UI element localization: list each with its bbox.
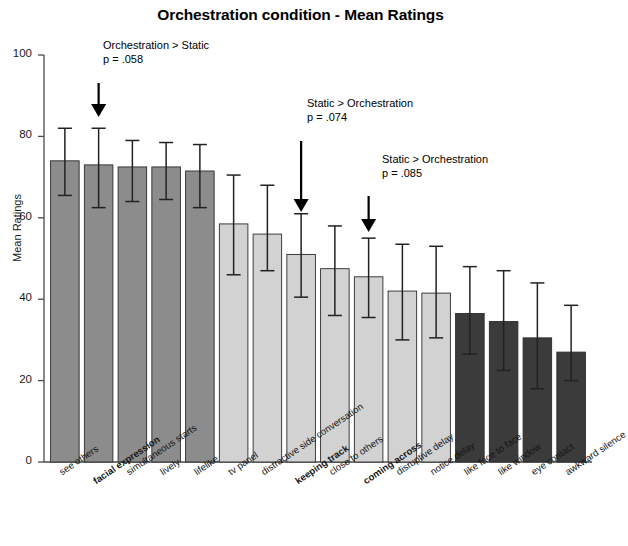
bar-group — [287, 214, 316, 462]
bar — [84, 165, 113, 462]
bar-group — [118, 140, 147, 462]
bar — [186, 171, 215, 462]
bar-group — [84, 128, 113, 462]
annotation-comparison: Orchestration > Static — [103, 38, 209, 52]
bar-group — [456, 267, 485, 462]
annotation-arrow — [294, 141, 309, 212]
annotation-arrow — [91, 83, 106, 117]
bar-group — [388, 244, 417, 462]
bar-group — [219, 175, 248, 462]
bar — [51, 161, 80, 462]
bar — [152, 167, 181, 462]
bar-group — [253, 185, 282, 462]
annotation-pvalue: p = .058 — [103, 52, 209, 66]
significance-annotation: Orchestration > Staticp = .058 — [103, 38, 209, 66]
significance-annotation: Static > Orchestrationp = .074 — [307, 96, 413, 124]
annotation-comparison: Static > Orchestration — [307, 96, 413, 110]
bar-group — [422, 246, 451, 462]
annotation-arrow — [361, 196, 376, 232]
bar-group — [152, 143, 181, 462]
bar-group — [186, 145, 215, 462]
annotation-comparison: Static > Orchestration — [382, 152, 488, 166]
bar-group — [557, 305, 586, 462]
significance-annotation: Static > Orchestrationp = .085 — [382, 152, 488, 180]
bar-group — [354, 238, 383, 462]
bar — [118, 167, 147, 462]
bar-group — [51, 128, 80, 462]
annotation-pvalue: p = .085 — [382, 166, 488, 180]
annotation-pvalue: p = .074 — [307, 110, 413, 124]
bar-group — [523, 283, 552, 462]
